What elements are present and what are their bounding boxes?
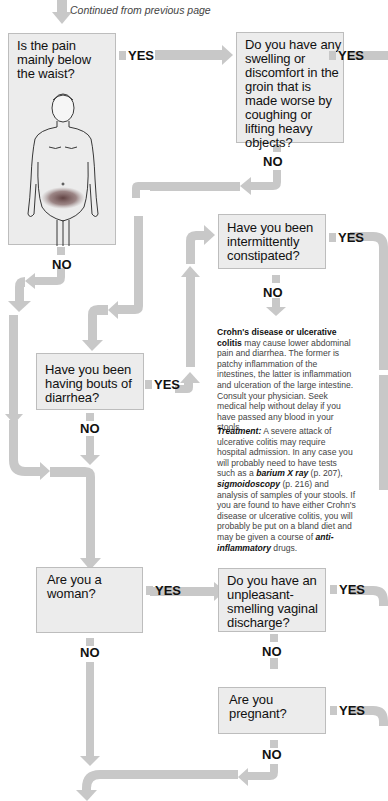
treatment-label: Treatment: — [217, 426, 261, 436]
no-label-q6: NO — [262, 645, 282, 659]
no-label-q5: NO — [80, 646, 100, 660]
yes-label-q7: YES — [330, 704, 365, 718]
treatment-text: (p. 207), — [308, 468, 342, 478]
info-body: may cause lower abdominal pain and diarr… — [217, 338, 353, 433]
question-box-groin-swelling: Do you have any swelling or discomfort i… — [236, 32, 344, 143]
yes-label-q6: YES — [330, 583, 365, 597]
link-sigmoidoscopy[interactable]: sigmoidoscopy — [217, 479, 280, 489]
yes-label-q3: YES — [329, 231, 364, 245]
no-label-q2: NO — [263, 155, 283, 169]
question-box-pain-below-waist: Is the pain mainly below the waist? — [8, 33, 116, 245]
male-body-figure-icon — [19, 92, 107, 246]
question-text: Have you been intermittently constipated… — [227, 221, 325, 263]
no-label-q4: NO — [80, 422, 100, 436]
yes-label-q4: YES — [145, 378, 180, 392]
no-label-q7: NO — [262, 748, 282, 762]
continued-note: Continued from previous page — [70, 4, 211, 16]
question-text: Are you a woman? — [47, 573, 137, 601]
no-label-q3: NO — [263, 286, 283, 300]
question-text: Is the pain mainly below the waist? — [17, 39, 112, 81]
yes-label-q5: YES — [146, 584, 181, 598]
pain-area-highlight — [41, 187, 85, 209]
question-box-constipated: Have you been intermittently constipated… — [218, 214, 326, 269]
question-text: Are you pregnant? — [229, 693, 319, 721]
yes-label-q1: YES — [119, 49, 154, 63]
question-box-pregnant: Are you pregnant? — [218, 687, 326, 734]
question-box-diarrhea: Have you been having bouts of diarrhea? — [36, 353, 144, 410]
no-label-q1: NO — [52, 258, 72, 272]
question-box-vaginal-discharge: Do you have an unpleasant-smelling vagin… — [218, 568, 326, 632]
crohns-colitis-info: Crohn's disease or ulcerative colitis ma… — [217, 327, 357, 433]
treatment-text: drugs. — [271, 543, 297, 553]
treatment-info: Treatment: A severe attack of ulcerative… — [217, 426, 357, 553]
question-box-woman: Are you a woman? — [36, 567, 143, 633]
link-barium-x-ray[interactable]: barium X ray — [256, 468, 308, 478]
question-text: Have you been having bouts of diarrhea? — [45, 363, 143, 405]
yes-label-q2: YES — [329, 49, 364, 63]
question-text: Do you have an unpleasant-smelling vagin… — [227, 574, 325, 630]
